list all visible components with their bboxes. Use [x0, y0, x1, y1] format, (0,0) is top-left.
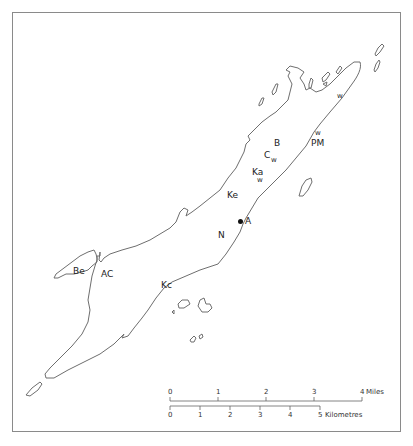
- scale-km-3: 3: [258, 412, 262, 419]
- islet-nw-1: [272, 84, 278, 95]
- scale-bar-miles-graphic: [170, 397, 362, 401]
- islet-s-4: [190, 336, 196, 342]
- scale-km-2: 2: [228, 412, 232, 419]
- islet-ne-2: [374, 60, 380, 72]
- label-w-ne: w: [337, 93, 343, 100]
- label-w-pm: w: [315, 130, 321, 137]
- islet-e: [299, 178, 312, 196]
- islet-ne-1: [375, 44, 384, 56]
- islet-s-5: [199, 334, 203, 339]
- label-n: N: [218, 231, 225, 240]
- scale-km-unit: Kilometres: [325, 412, 362, 419]
- islet-s-3: [198, 298, 212, 312]
- label-ac: AC: [101, 270, 113, 279]
- label-kc: Kc: [161, 281, 172, 290]
- scale-miles-0: 0: [168, 389, 172, 396]
- location-a-marker: [238, 219, 243, 224]
- scale-miles-unit: Miles: [366, 389, 384, 396]
- islet-n-4: [323, 82, 327, 86]
- island-map: [0, 0, 413, 446]
- scale-km-1: 1: [198, 412, 202, 419]
- label-ka-w: w: [257, 177, 263, 184]
- scale-km-5: 5: [318, 412, 322, 419]
- scale-km-4: 4: [288, 412, 292, 419]
- label-ke: Ke: [227, 191, 238, 200]
- label-b: B: [274, 139, 280, 148]
- label-be: Be: [73, 267, 85, 276]
- islet-s-1: [178, 300, 190, 308]
- islet-n-3: [309, 78, 313, 88]
- scale-miles-1: 1: [216, 389, 220, 396]
- islet-nw-2: [259, 98, 264, 106]
- islet-sw: [26, 382, 42, 396]
- scale-miles-4: 4: [360, 389, 364, 396]
- scale-bar-km-graphic: [170, 406, 320, 410]
- label-c-w: w: [271, 157, 277, 164]
- scale-km-0: 0: [168, 412, 172, 419]
- main-island-outline: [45, 62, 361, 378]
- label-c: C: [264, 151, 270, 160]
- islet-n-1: [322, 72, 330, 82]
- label-a: A: [245, 217, 251, 226]
- label-pm: PM: [311, 139, 324, 148]
- islet-s-2: [172, 310, 174, 314]
- scale-miles-3: 3: [312, 389, 316, 396]
- scale-miles-2: 2: [264, 389, 268, 396]
